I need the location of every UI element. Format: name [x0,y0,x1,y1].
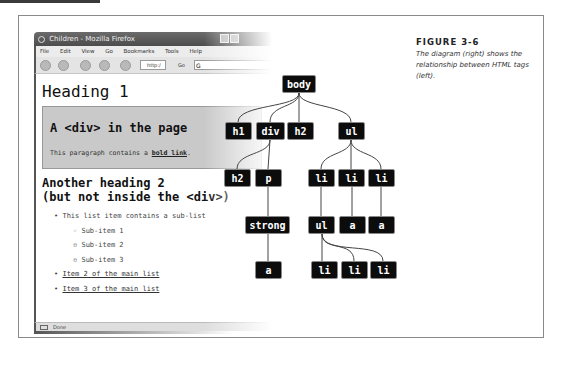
node-a: a [368,216,395,234]
node-strong: strong [245,216,290,234]
node-body: body [282,75,316,93]
node-ul-inner: ul [308,216,335,234]
node-li: li [338,169,365,187]
node-li-inner: li [341,261,368,279]
node-a: a [255,261,282,279]
node-li: li [368,169,395,187]
node-li-inner: li [311,261,338,279]
node-p: p [255,169,282,187]
node-ul: ul [338,122,365,140]
node-a: a [339,216,366,234]
node-li-inner: li [370,261,397,279]
node-li: li [308,169,335,187]
node-h2-inner: h2 [224,169,251,187]
node-div: div [256,122,285,140]
node-h2: h2 [287,122,314,140]
node-h1: h1 [225,122,252,140]
